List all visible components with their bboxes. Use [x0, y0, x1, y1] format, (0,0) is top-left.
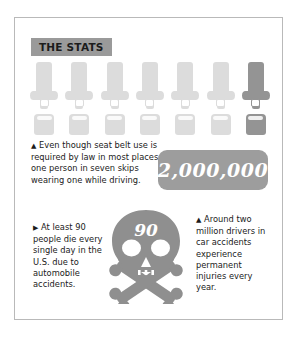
seat-belt-buckle-row: [30, 62, 270, 136]
section-badge: THE STATS: [31, 38, 112, 56]
stat-daily-deaths: ▶ At least 90 people die every single da…: [33, 222, 111, 290]
stat-permanent-injuries: ▲ Around two million drivers in car acci…: [196, 214, 272, 293]
buckle-notch: [110, 99, 119, 107]
buckle-receptacle: [34, 114, 54, 135]
bullet-up-triangle-icon: ▲: [196, 216, 201, 224]
seat-belt-buckle-icon: [30, 62, 58, 136]
section-badge-label: THE STATS: [39, 41, 104, 53]
stat-permanent-injuries-text: Around two million drivers in car accide…: [196, 214, 265, 292]
seat-belt-buckle-icon-highlighted: [242, 62, 270, 136]
buckle-receptacle: [140, 114, 160, 135]
buckle-receptacle: [246, 114, 266, 135]
stat-seatbelt-law: ▲ Even though seat belt use is required …: [31, 140, 163, 186]
buckle-notch: [145, 99, 154, 107]
seat-belt-buckle-icon: [101, 62, 129, 136]
seat-belt-buckle-icon: [65, 62, 93, 136]
buckle-receptacle: [105, 114, 125, 135]
buckle-notch: [40, 99, 49, 107]
buckle-receptacle: [175, 114, 195, 135]
buckle-notch: [216, 99, 225, 107]
buckle-receptacle: [211, 114, 231, 135]
callout-two-million: 2,000,000: [158, 150, 268, 190]
infographic-panel: THE STATS: [0, 0, 299, 338]
buckle-notch: [181, 99, 190, 107]
bullet-right-triangle-icon: ▶: [33, 224, 38, 232]
stat-seatbelt-law-text: Even though seat belt use is required by…: [31, 140, 161, 185]
seat-belt-buckle-icon: [207, 62, 235, 136]
skull-and-crossbones-icon: 90: [108, 208, 184, 304]
callout-value: 2,000,000: [158, 159, 268, 181]
stat-daily-deaths-text: At least 90 people die every single day …: [33, 222, 103, 289]
seat-belt-buckle-icon: [171, 62, 199, 136]
buckle-notch: [75, 99, 84, 107]
bullet-up-triangle-icon: ▲: [31, 142, 36, 150]
buckle-receptacle: [69, 114, 89, 135]
buckle-notch: [251, 99, 260, 107]
seat-belt-buckle-icon: [136, 62, 164, 136]
